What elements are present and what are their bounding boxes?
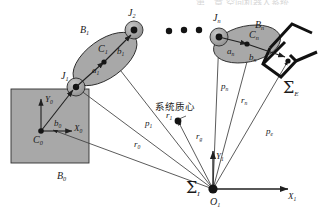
inertial-axis-x1-sub: 1 (294, 196, 297, 202)
inertial-axis-y1-sub: 1 (221, 156, 224, 162)
vector-line-rn (213, 43, 252, 189)
base-axis-x0-sub: 0 (80, 128, 83, 134)
base-body-label-sub: 0 (63, 175, 66, 182)
vector-rn-label: rn (241, 96, 247, 105)
vector-bn-label: bn (249, 53, 256, 62)
inertial-frame-sub: I (197, 190, 199, 198)
vector-an-label: an (227, 47, 234, 56)
jointn-label: Jn (213, 13, 221, 23)
vector-p1-label: p1 (145, 119, 152, 128)
link1-label: B1 (80, 25, 89, 35)
vector-r1-sub: 1 (170, 115, 173, 121)
com-annotation-leader (179, 116, 186, 119)
system-com-annotation: 系统质心 (155, 99, 195, 113)
jointn-label-sub: n (217, 17, 220, 24)
vector-pn-label: pn (221, 82, 228, 91)
vector-pe-sub: e (271, 131, 273, 137)
linkn-centroid-point (244, 41, 249, 46)
link1-centroid-point (101, 59, 106, 64)
base-axis-y0-sub: 0 (50, 99, 53, 105)
end-effector-frame-sub: E (294, 90, 298, 98)
vector-p1-sub: 1 (150, 123, 153, 129)
base-centroid-point (38, 128, 44, 134)
inertial-origin-sub: 1 (217, 201, 220, 208)
linkn-centroid-label: Cn (249, 30, 259, 40)
link1-centroid-label-sub: 1 (105, 48, 108, 55)
vector-b1-sub: 1 (122, 51, 125, 57)
base-centroid-label-sub: 0 (40, 139, 43, 146)
inertial-axis-y1-label: Y1 (216, 152, 224, 161)
vector-b0-sub: 0 (59, 123, 62, 129)
vector-rg-label: rg (196, 132, 202, 141)
base-centroid-label: C0 (33, 135, 43, 145)
vector-a1-label: a1 (92, 66, 99, 75)
vector-r0-label: r0 (134, 140, 140, 149)
joint-j2 (125, 21, 143, 39)
joint1-label-sub: 1 (65, 75, 68, 82)
joint2-label-sub: 2 (132, 12, 135, 19)
inertial-origin-point (208, 184, 217, 193)
link1-label-sub: 1 (86, 29, 89, 36)
inertial-axis-x1-label: X1 (288, 192, 296, 201)
vector-a1-sub: 1 (97, 70, 100, 76)
base-axis-y0-label: Y0 (45, 95, 53, 104)
page-header-fragment: 第二章 空间机器人系统 (196, 0, 322, 5)
vector-line-pn (213, 37, 219, 189)
ellipsis-dots (166, 27, 202, 34)
inertial-origin-label: O1 (210, 197, 220, 207)
linkn-centroid-label-sub: n (256, 34, 259, 41)
vector-rn-sub: n (245, 100, 248, 106)
base-body-label: B0 (57, 171, 66, 181)
linkn-label-sub: n (261, 24, 264, 31)
vector-b1-label: b1 (117, 47, 124, 56)
end-effector-origin-point (285, 58, 290, 63)
joint2-label: J2 (128, 8, 136, 18)
vector-pe-label: pe (266, 127, 273, 136)
vector-line-r1 (110, 57, 213, 189)
vector-rg-sub: g (200, 136, 203, 142)
linkn-label: Bn (255, 20, 264, 30)
vector-pn-sub: n (226, 86, 229, 92)
vector-an-sub: n (232, 51, 235, 57)
end-effector-frame-label: ΣE (283, 80, 299, 96)
vector-b0-label: b0 (54, 119, 61, 128)
vector-r0-sub: 0 (138, 144, 141, 150)
joint1-label: J1 (61, 71, 69, 81)
inertial-frame-label: ΣI (186, 180, 200, 196)
base-axis-x0-label: X0 (74, 124, 82, 133)
vector-bn-sub: n (254, 57, 257, 63)
link1-centroid-label: C1 (98, 44, 108, 54)
